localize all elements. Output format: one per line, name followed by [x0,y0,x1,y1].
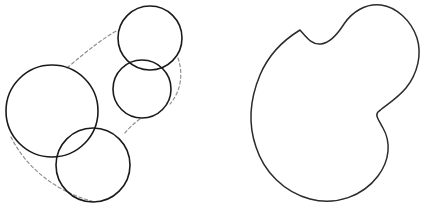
canvas-background [0,0,424,209]
figure-canvas [0,0,424,209]
figure-root [0,0,424,209]
